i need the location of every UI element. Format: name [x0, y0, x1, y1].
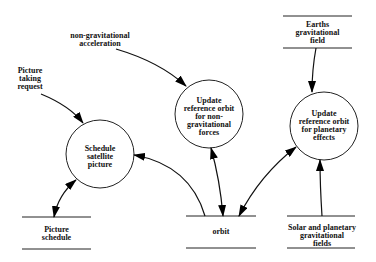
store-label-earths-gravitational-field: Earths gravitational field	[283, 21, 352, 45]
flow-acceleration-arrow	[116, 49, 186, 86]
flow-solar-fields-arrow	[320, 160, 322, 216]
process-label-non-gravitational: Update reference orbit for non- gravitat…	[172, 97, 246, 137]
label-line: fields	[282, 240, 362, 248]
flow-earths-field-arrow	[312, 48, 316, 92]
process-label-planetary: Update reference orbit for planetary eff…	[287, 110, 361, 142]
flow-picture-request-arrow	[41, 94, 83, 123]
store-label-picture-schedule: Picture schedule	[22, 226, 91, 242]
flow-orbit-nongrav-arrow	[211, 148, 223, 216]
external-non-gravitational-acceleration: non-gravitational acceleration	[55, 32, 145, 48]
label-line: orbit	[186, 228, 256, 236]
label-line: forces	[172, 129, 246, 137]
store-label-orbit: orbit	[186, 228, 256, 236]
label-line: field	[283, 37, 352, 45]
label-line: schedule	[22, 234, 91, 242]
external-picture-taking-request: Picture taking request	[5, 67, 55, 91]
store-label-solar-planetary-fields: Solar and planetary gravitational fields	[282, 224, 362, 248]
label-line: request	[5, 83, 55, 91]
flow-orbit-to-schedule-arrow	[134, 155, 205, 216]
label-line: acceleration	[55, 40, 145, 48]
label-line: effects	[287, 134, 361, 142]
flow-orbit-planetary-arrow	[239, 147, 296, 216]
process-label-schedule: Schedule satellite picture	[68, 145, 132, 169]
label-line: picture	[68, 161, 132, 169]
flow-schedule-picture-arrow	[54, 180, 76, 217]
